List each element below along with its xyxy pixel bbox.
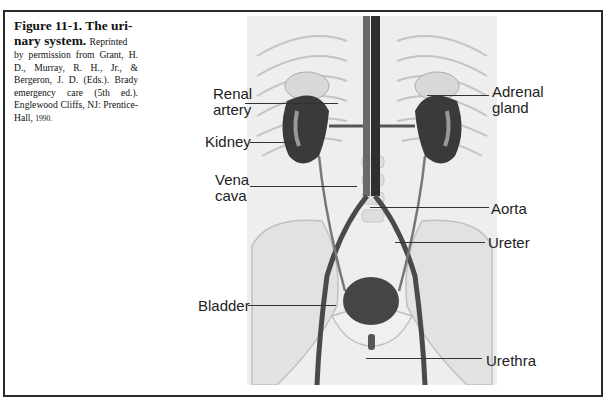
kidney-left-icon [282,95,329,163]
urinary-system-illustration [247,16,497,385]
label-bladder: Bladder [198,298,250,314]
leader-ureter [395,242,485,243]
figure-caption: Figure 11-1. The uri- nary system. Repri… [14,18,138,126]
label-adrenal-gland-2: gland [492,100,544,116]
urethra-icon [368,334,375,350]
label-kidney: Kidney [205,134,251,150]
leader-aorta [370,207,489,208]
leader-kidney [250,142,295,143]
bladder-icon [343,277,399,325]
label-renal-artery: Renal artery [213,86,245,118]
label-ureter: Ureter [488,235,530,251]
leader-urethra [366,358,482,359]
label-urethra: Urethra [486,353,536,369]
credit-text: by permission from Grant, H. D., Murray,… [14,49,138,123]
label-renal-artery-1: Renal [213,86,245,102]
figure-heading-line1: Figure 11-1. The uri- [14,18,133,33]
credit-first: Reprinted [90,36,128,47]
label-vena-cava-2: cava [215,188,245,204]
leader-vena-cava [250,186,357,187]
leader-adrenal-gland [427,95,489,96]
leader-renal-artery [245,103,338,104]
label-adrenal-gland: Adrenal gland [492,84,544,116]
credit-year: 1990. [35,114,52,123]
label-adrenal-gland-1: Adrenal [492,84,544,100]
label-renal-artery-2: artery [213,102,245,118]
figure-heading-line2: nary system. [14,33,86,48]
leader-bladder [248,305,336,306]
anatomy-drawing [247,16,497,385]
figure-heading: Figure 11-1. The uri- nary system. Repri… [14,18,138,49]
label-vena-cava: Vena cava [215,172,245,204]
label-vena-cava-1: Vena [215,172,245,188]
kidney-right-icon [415,95,462,163]
label-aorta: Aorta [491,201,527,217]
